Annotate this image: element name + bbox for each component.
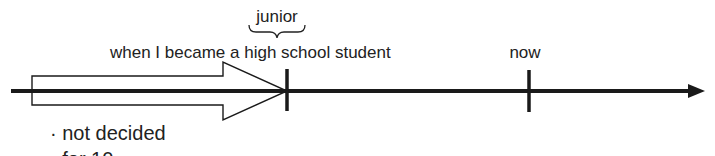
curly-brace-icon: [249, 25, 305, 38]
brace-label-junior: junior: [255, 7, 298, 26]
timeline-diagram: junior when I became a high school stude…: [0, 0, 715, 156]
timeline-arrowhead-icon: [688, 84, 705, 98]
note-item: · for 10 ...: [50, 148, 136, 156]
marker-label-high-school: when I became a high school student: [109, 43, 391, 62]
marker-label-now: now: [509, 43, 541, 62]
note-item: · not decided: [50, 122, 166, 144]
